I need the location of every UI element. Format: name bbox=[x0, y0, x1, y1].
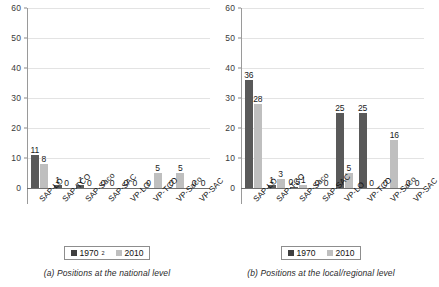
y-tick-mark bbox=[238, 98, 241, 99]
x-category: VP-LO bbox=[333, 194, 356, 238]
y-tick-label: 40 bbox=[225, 64, 235, 73]
bar-value-label: 5 bbox=[347, 164, 352, 173]
y-tick-label: 10 bbox=[225, 154, 235, 163]
x-category: VP-TCO bbox=[142, 194, 165, 238]
y-tick-label: 0 bbox=[230, 184, 235, 193]
legend-box-a: 197022010 bbox=[64, 246, 151, 260]
y-tick-mark bbox=[24, 8, 27, 9]
x-category: VP-SAC bbox=[187, 194, 210, 238]
y-tick-mark bbox=[238, 38, 241, 39]
x-category: VP-TCO bbox=[356, 194, 379, 238]
legend-a: 197022010 bbox=[0, 246, 214, 260]
bar: 11 bbox=[31, 155, 39, 188]
y-tick-label: 40 bbox=[11, 64, 21, 73]
legend-item[interactable]: 1970 bbox=[288, 248, 316, 258]
y-tick-mark bbox=[238, 128, 241, 129]
chart-panel-b: 0102030405060 3628130.510025525001600 SA… bbox=[214, 0, 428, 287]
x-category: SAP-TCO bbox=[51, 194, 74, 238]
y-tick-label: 20 bbox=[11, 124, 21, 133]
bar-group: 250 bbox=[356, 8, 379, 188]
y-tick-mark bbox=[24, 98, 27, 99]
y-tick-mark bbox=[24, 68, 27, 69]
x-category: SAP-Saco bbox=[288, 194, 311, 238]
y-tick-mark bbox=[24, 128, 27, 129]
bar-group: 05 bbox=[142, 8, 165, 188]
plot-area-a: 0102030405060 11810100000050500 SAP-LOSA… bbox=[0, 8, 214, 204]
bar-group: 13 bbox=[265, 8, 288, 188]
x-category: VP-SAC bbox=[401, 194, 424, 238]
bar-value-label: 5 bbox=[155, 164, 160, 173]
bar-groups-b: 3628130.510025525001600 bbox=[242, 8, 424, 188]
bar: 36 bbox=[245, 80, 253, 188]
legend-item[interactable]: 2010 bbox=[327, 248, 355, 258]
bar-group: 00 bbox=[401, 8, 424, 188]
bar-value-label: 28 bbox=[253, 95, 262, 104]
y-tick-label: 30 bbox=[11, 94, 21, 103]
y-tick-mark bbox=[238, 158, 241, 159]
legend-label: 1970 bbox=[297, 248, 316, 258]
x-axis-categories-b: SAP-LOSAP-TCOSAP-SacoSAP-SACVP-LOVP-TCOV… bbox=[242, 194, 424, 238]
x-category: SAP-TCO bbox=[265, 194, 288, 238]
y-tick-label: 20 bbox=[225, 124, 235, 133]
bar-value-label: 3 bbox=[278, 170, 283, 179]
bar-value-label: 25 bbox=[335, 104, 344, 113]
bar-group: 10 bbox=[74, 8, 97, 188]
y-tick-mark bbox=[24, 158, 27, 159]
y-tick-label: 60 bbox=[11, 4, 21, 13]
y-tick-label: 30 bbox=[225, 94, 235, 103]
bar-value-label: 25 bbox=[358, 104, 367, 113]
x-category: SAP-SAC bbox=[310, 194, 333, 238]
legend-b: 19702010 bbox=[214, 246, 428, 260]
x-category: VP-LO bbox=[119, 194, 142, 238]
legend-box-b: 19702010 bbox=[281, 246, 362, 260]
x-category: SAP-LO bbox=[28, 194, 51, 238]
legend-label: 2010 bbox=[336, 248, 355, 258]
bar-group: 05 bbox=[165, 8, 188, 188]
y-tick-label: 10 bbox=[11, 154, 21, 163]
x-category: SAP-Saco bbox=[74, 194, 97, 238]
bar-value-label: 16 bbox=[390, 131, 399, 140]
bar-value-label: 11 bbox=[30, 146, 39, 155]
bar-group: 016 bbox=[379, 8, 402, 188]
caption-b: (b) Positions at the local/regional leve… bbox=[214, 268, 428, 278]
bar-group: 3628 bbox=[242, 8, 265, 188]
bar: 28 bbox=[254, 104, 262, 188]
plot-area-b: 0102030405060 3628130.510025525001600 SA… bbox=[214, 8, 428, 204]
x-axis-categories-a: SAP-LOSAP-TCOSAP-SacoSAP-SACVP-LOVP-TCOV… bbox=[28, 194, 210, 238]
y-tick-label: 0 bbox=[16, 184, 21, 193]
legend-swatch bbox=[71, 250, 77, 256]
y-tick-label: 60 bbox=[225, 4, 235, 13]
y-tick-label: 50 bbox=[225, 34, 235, 43]
bar-group: 00 bbox=[96, 8, 119, 188]
bar-value-label: 0 bbox=[64, 179, 69, 188]
x-category: VP-Saco bbox=[379, 194, 402, 238]
y-axis-labels-a: 0102030405060 bbox=[0, 8, 24, 204]
legend-label: 1970 bbox=[80, 248, 99, 258]
bar-group: 10 bbox=[51, 8, 74, 188]
legend-item[interactable]: 19702 bbox=[71, 248, 105, 258]
y-tick-mark bbox=[24, 38, 27, 39]
bar-groups-a: 11810100000050500 bbox=[28, 8, 210, 188]
bar-group: 0.51 bbox=[288, 8, 311, 188]
bar: 8 bbox=[40, 164, 48, 188]
bar-group: 00 bbox=[187, 8, 210, 188]
bar-group: 118 bbox=[28, 8, 51, 188]
bar-group: 00 bbox=[119, 8, 142, 188]
y-tick-label: 50 bbox=[11, 34, 21, 43]
x-category: VP-Saco bbox=[165, 194, 188, 238]
bar-value-label: 0 bbox=[369, 179, 374, 188]
chart-panel-a: 0102030405060 11810100000050500 SAP-LOSA… bbox=[0, 0, 214, 287]
bar-value-label: 8 bbox=[42, 155, 47, 164]
legend-label: 2010 bbox=[125, 248, 144, 258]
legend-swatch bbox=[116, 250, 122, 256]
bar: 5 bbox=[154, 173, 162, 188]
legend-item[interactable]: 2010 bbox=[116, 248, 144, 258]
bar-value-label: 5 bbox=[178, 164, 183, 173]
x-category: SAP-LO bbox=[242, 194, 265, 238]
y-tick-mark bbox=[238, 68, 241, 69]
x-category: SAP-SAC bbox=[96, 194, 119, 238]
legend-swatch bbox=[327, 250, 333, 256]
y-axis-labels-b: 0102030405060 bbox=[214, 8, 238, 204]
bar-group: 255 bbox=[333, 8, 356, 188]
caption-a: (a) Positions at the national level bbox=[0, 268, 214, 278]
